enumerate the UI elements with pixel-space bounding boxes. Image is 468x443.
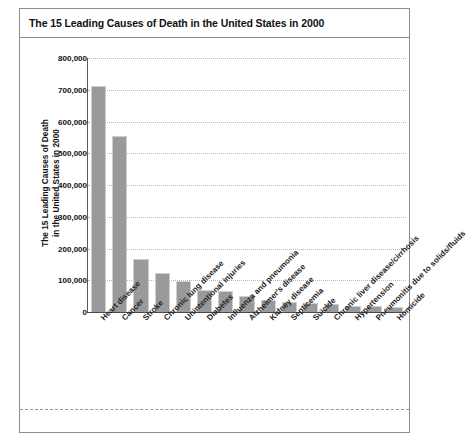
bar-cancer xyxy=(112,136,127,312)
y-axis-tick-label: 100,000 xyxy=(27,276,87,285)
bar-slot xyxy=(109,58,130,312)
y-axis-tick-label: 300,000 xyxy=(27,212,87,221)
title-bar: The 15 Leading Causes of Death in the Un… xyxy=(20,9,409,38)
page-title: The 15 Leading Causes of Death in the Un… xyxy=(20,17,324,29)
chart-panel: The 15 Leading Causes of Death in the Un… xyxy=(19,8,410,433)
y-axis-tick-label: 600,000 xyxy=(27,117,87,126)
bar-slot xyxy=(236,58,257,312)
y-axis-tick-label: 400,000 xyxy=(27,181,87,190)
bar-slot xyxy=(88,58,109,312)
bar-slot xyxy=(130,58,151,312)
y-axis-tick-label: 500,000 xyxy=(27,149,87,158)
y-axis-tick-label: 200,000 xyxy=(27,244,87,253)
footer-divider xyxy=(20,409,409,410)
bar-heart-disease xyxy=(91,86,106,312)
bar-slot xyxy=(385,58,406,312)
plot-area: The 15 Leading Causes of Death in the Un… xyxy=(20,38,409,433)
bar-slot xyxy=(173,58,194,312)
y-axis-tick-label: 0 xyxy=(27,308,87,317)
bar-series xyxy=(88,58,406,312)
bar-slot xyxy=(300,58,321,312)
bar-slot xyxy=(152,58,173,312)
bar-slot xyxy=(342,58,363,312)
bar-slot xyxy=(321,58,342,312)
y-axis-tick-label: 800,000 xyxy=(27,54,87,63)
y-axis-tick-label: 700,000 xyxy=(27,85,87,94)
y-axis-ticks: 800,000700,000600,000500,000400,000300,0… xyxy=(25,38,87,433)
